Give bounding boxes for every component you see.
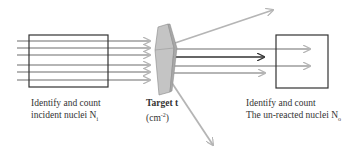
incident-label: Identify and count incident nuclei Ni (31, 97, 101, 125)
incident-beam-arrows (17, 41, 150, 80)
target-label: Target t (cm-2) (146, 97, 178, 124)
unreacted-detector-box (276, 35, 328, 88)
unreacted-label: Identify and count The un-reacted nuclei… (246, 97, 341, 125)
diagram-canvas (0, 0, 364, 157)
